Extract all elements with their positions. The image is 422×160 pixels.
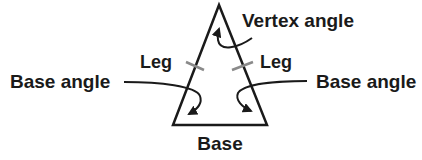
base-angle-right-arrow: [237, 81, 307, 111]
vertex-angle-label: Vertex angle: [242, 10, 354, 31]
base-angle-right-label: Base angle: [316, 71, 416, 92]
leg-right-label: Leg: [260, 52, 292, 72]
base-label: Base: [197, 133, 242, 154]
base-angle-left-label: Base angle: [10, 71, 110, 92]
isosceles-triangle-diagram: Vertex angle Leg Leg Base angle Base ang…: [0, 0, 422, 160]
leg-left-label: Leg: [140, 52, 172, 72]
base-angle-left-arrow: [124, 82, 201, 114]
